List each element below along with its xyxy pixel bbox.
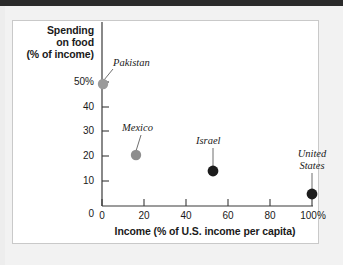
leader-line-pakistan: [104, 69, 113, 80]
point-label-united-states-line-2: States: [299, 160, 324, 171]
y-tick-label-50: 50%: [62, 76, 94, 87]
point-label-mexico: Mexico: [122, 122, 153, 134]
x-tick-label-20: 20: [124, 210, 164, 221]
data-point-mexico: [131, 150, 141, 160]
point-label-israel: Israel: [196, 135, 221, 147]
x-axis-title: Income (% of U.S. income per capita): [80, 225, 330, 237]
x-axis-ticks: [102, 199, 312, 206]
y-axis-ticks: [102, 82, 109, 181]
y-axis-title-line-2: on food: [22, 36, 94, 48]
y-tick-label-30: 30: [62, 125, 94, 136]
leader-line-mexico: [136, 135, 141, 151]
data-point-pakistan: [98, 79, 108, 89]
point-label-united-states: United States: [288, 148, 336, 171]
data-point-united-states: [307, 189, 318, 200]
axis-lines: [102, 22, 313, 206]
x-tick-label-100: 100%: [293, 210, 333, 221]
y-tick-label-10: 10: [62, 175, 94, 186]
y-origin-label: 0: [62, 208, 94, 219]
y-axis-title-line-1: Spending: [22, 24, 94, 36]
data-point-israel: [208, 166, 219, 177]
point-label-united-states-line-1: United: [298, 148, 327, 159]
x-tick-label-40: 40: [166, 210, 206, 221]
y-tick-label-20: 20: [62, 150, 94, 161]
y-axis-title-line-3: (% of income): [14, 48, 94, 60]
y-tick-label-40: 40: [62, 101, 94, 112]
point-label-pakistan: Pakistan: [113, 57, 150, 69]
x-tick-label-60: 60: [208, 210, 248, 221]
x-tick-label-80: 80: [250, 210, 290, 221]
